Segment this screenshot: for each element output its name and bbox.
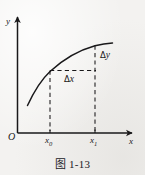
delta-y-annotation: Δy — [100, 51, 110, 61]
tick-label-x1: x1 — [90, 136, 97, 147]
tick-label-x0-subscript: 0 — [49, 140, 52, 147]
tick-label-x0: x0 — [45, 136, 52, 147]
plot-canvas — [0, 0, 145, 175]
origin-label: O — [8, 132, 15, 142]
figure-caption-wrap: 图 1-13 — [0, 155, 145, 171]
figure-caption: 图 1-13 — [55, 158, 91, 170]
delta-y-variable: y — [106, 50, 110, 60]
tick-label-x1-subscript: 1 — [94, 140, 97, 147]
figure-container: y x O x0 x1 Δx Δy 图 1-13 — [0, 0, 145, 175]
delta-x-variable: x — [70, 74, 74, 84]
delta-x-annotation: Δx — [64, 75, 74, 85]
y-axis-label: y — [6, 17, 10, 26]
x-axis-label: x — [129, 137, 133, 146]
